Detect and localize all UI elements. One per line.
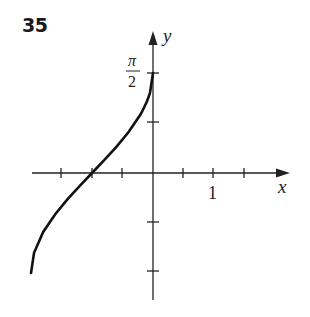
pi-over-two-label: π 2 <box>126 52 140 90</box>
pi-denominator: 2 <box>128 73 136 90</box>
x-axis-label: x <box>277 176 287 197</box>
y-axis-label: y <box>161 25 172 46</box>
y-axis-arrow-icon <box>149 31 158 45</box>
pi-numerator: π <box>128 52 137 69</box>
x-tick-label-one: 1 <box>208 183 217 203</box>
graph: y x 1 π 2 <box>0 0 310 317</box>
